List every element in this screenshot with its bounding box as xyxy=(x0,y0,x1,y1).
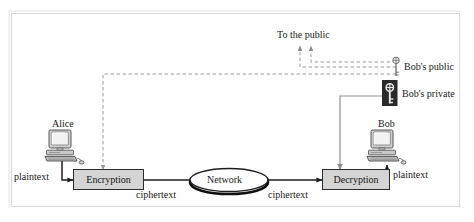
encryption-box[interactable]: Encryption xyxy=(73,169,144,190)
alice-computer-icon xyxy=(45,130,84,164)
encryption-box-label: Encryption xyxy=(86,174,130,185)
bob-computer-icon xyxy=(367,130,406,164)
flow-alice-to-encryption xyxy=(62,160,73,180)
private-key-filled-icon xyxy=(382,80,398,106)
ciphertext-right-label: ciphertext xyxy=(268,190,308,200)
flow-public-key-to-encryption xyxy=(103,74,396,170)
network-label: Network xyxy=(207,175,242,185)
to-the-public-label: To the public xyxy=(277,30,330,40)
flow-public-key-to-the-public xyxy=(300,46,396,67)
decryption-box-label: Decryption xyxy=(334,174,379,185)
bob-label: Bob xyxy=(378,119,395,129)
alice-label: Alice xyxy=(52,119,74,129)
diagram-canvas xyxy=(0,0,474,222)
bobs-private-label: Bob's private xyxy=(402,89,455,99)
ciphertext-left-label: ciphertext xyxy=(136,190,176,200)
decryption-box[interactable]: Decryption xyxy=(322,169,390,190)
plaintext-right-label: plaintext xyxy=(393,170,428,180)
plaintext-left-label: plaintext xyxy=(14,172,49,182)
figure-root: Encryption Decryption Network To the pub… xyxy=(0,0,474,222)
bobs-public-label: Bob's public xyxy=(404,62,454,72)
